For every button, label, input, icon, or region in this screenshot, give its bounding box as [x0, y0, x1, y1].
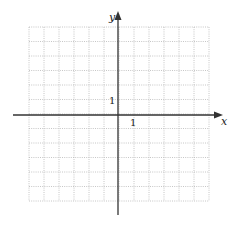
grid-lines [29, 27, 209, 201]
y-axis-label: y [108, 11, 116, 24]
x-unit-label: 1 [130, 117, 136, 128]
y-axis-arrow-icon [115, 11, 122, 20]
x-axis-label: x [221, 115, 228, 128]
y-unit-label: 1 [109, 95, 115, 106]
coordinate-plane: y x 1 1 [0, 0, 237, 225]
